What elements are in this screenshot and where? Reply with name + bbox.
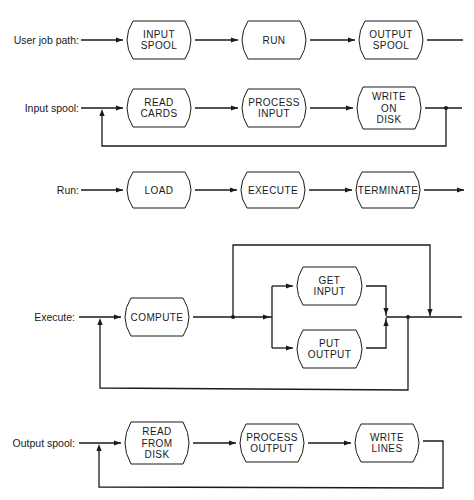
arrowhead-icon bbox=[231, 105, 238, 110]
node-label-line: WRITE bbox=[370, 432, 404, 443]
node-label-line: CARDS bbox=[140, 108, 177, 119]
node-label-line: READ bbox=[142, 426, 171, 437]
node-label-line: PROCESS bbox=[246, 432, 298, 443]
node-label-line: OUTPUT bbox=[369, 29, 413, 40]
node-label-line: LOAD bbox=[145, 185, 174, 196]
node-execute: EXECUTE bbox=[241, 172, 305, 208]
node-label-line: WRITE bbox=[372, 91, 406, 102]
node-process-input: PROCESSINPUT bbox=[242, 89, 306, 127]
node-label-line: DISK bbox=[377, 114, 402, 125]
edge bbox=[366, 286, 386, 316]
node-label-line: INPUT bbox=[258, 108, 290, 119]
node-run: RUN bbox=[242, 21, 306, 59]
node-label-line: OUTPUT bbox=[250, 443, 294, 454]
node-label-line: PUT bbox=[319, 338, 340, 349]
arrowhead-icon bbox=[97, 318, 102, 325]
arrowhead-icon bbox=[263, 314, 270, 319]
arrowhead-icon bbox=[383, 308, 388, 315]
row-label-user-job-path: User job path: bbox=[14, 34, 79, 46]
node-label-line: READ bbox=[144, 97, 173, 108]
node-read-cards: READCARDS bbox=[127, 89, 191, 127]
node-label-line: DISK bbox=[145, 449, 170, 460]
arrowhead-icon bbox=[344, 440, 351, 445]
arrowhead-icon bbox=[231, 37, 238, 42]
arrowhead-icon bbox=[346, 105, 353, 110]
node-label-line: RUN bbox=[263, 35, 286, 46]
arrowhead-icon bbox=[427, 309, 432, 316]
arrowhead-icon bbox=[96, 444, 101, 451]
node-write-lines: WRITELINES bbox=[355, 424, 419, 462]
arrowhead-icon bbox=[99, 109, 104, 116]
arrowhead-icon bbox=[286, 345, 293, 350]
node-input-spool: INPUTSPOOL bbox=[127, 21, 191, 59]
node-label-line: INPUT bbox=[314, 286, 346, 297]
node-label-line: PROCESS bbox=[248, 97, 300, 108]
row-label-input-spool: Input spool: bbox=[25, 102, 79, 114]
node-label-line: EXECUTE bbox=[248, 185, 298, 196]
node-load: LOAD bbox=[127, 172, 191, 208]
node-write-on-disk: WRITEONDISK bbox=[357, 87, 421, 129]
node-label-line: FROM bbox=[141, 438, 172, 449]
arrowhead-icon bbox=[114, 314, 121, 319]
arrowhead-icon bbox=[348, 37, 355, 42]
node-label-line: OUTPUT bbox=[308, 349, 352, 360]
node-label-line: LINES bbox=[372, 443, 403, 454]
row-label-output-spool: Output spool: bbox=[13, 437, 75, 449]
arrowhead-icon bbox=[229, 440, 236, 445]
arrowhead-icon bbox=[286, 283, 293, 288]
row-label-run: Run: bbox=[57, 184, 79, 196]
node-get-input: GETINPUT bbox=[297, 267, 362, 305]
node-put-output: PUTOUTPUT bbox=[297, 330, 362, 368]
job-flow-diagram: User job path:INPUTSPOOLRUNOUTPUTSPOOLIn… bbox=[0, 0, 474, 500]
node-read-from-disk: READFROMDISK bbox=[125, 422, 189, 464]
node-terminate: TERMINATE bbox=[356, 172, 420, 208]
node-process-output: PROCESSOUTPUT bbox=[240, 424, 304, 462]
arrowhead-icon bbox=[383, 319, 388, 326]
arrowhead-icon bbox=[116, 37, 123, 42]
node-label-line: INPUT bbox=[143, 29, 175, 40]
edge bbox=[366, 318, 386, 348]
node-output-spool: OUTPUTSPOOL bbox=[359, 21, 423, 59]
node-label-line: SPOOL bbox=[141, 40, 177, 51]
arrowhead-icon bbox=[116, 105, 123, 110]
row-label-execute: Execute: bbox=[34, 311, 75, 323]
arrowhead-icon bbox=[457, 187, 464, 192]
arrowhead-icon bbox=[116, 187, 123, 192]
node-label-line: TERMINATE bbox=[358, 185, 419, 196]
node-label-line: ON bbox=[381, 103, 397, 114]
node-label-line: COMPUTE bbox=[131, 312, 184, 323]
arrowhead-icon bbox=[345, 187, 352, 192]
node-compute: COMPUTE bbox=[125, 298, 189, 336]
arrowhead-icon bbox=[230, 187, 237, 192]
arrowhead-icon bbox=[114, 440, 121, 445]
node-label-line: GET bbox=[319, 275, 341, 286]
node-label-line: SPOOL bbox=[373, 40, 409, 51]
